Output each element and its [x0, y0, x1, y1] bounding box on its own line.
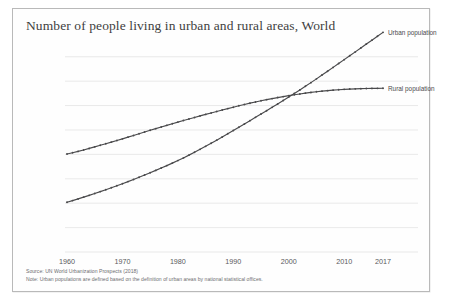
x-tick-label: 1990 — [225, 257, 241, 266]
footer-source: Source: UN World Urbanization Prospects … — [26, 267, 421, 275]
x-tick-label: 2017 — [375, 257, 391, 266]
footer-note: Note: Urban populations are defined base… — [26, 275, 421, 283]
x-tick-label: 1960 — [59, 257, 75, 266]
series-label-urban: Urban population — [388, 29, 437, 36]
x-axis-tick-labels: 1960197019801990200020102017 — [13, 9, 431, 293]
series-label-rural: Rural population — [388, 85, 435, 92]
chart-footer: Source: UN World Urbanization Prospects … — [26, 267, 421, 283]
x-tick-label: 1980 — [170, 257, 186, 266]
x-tick-label: 1970 — [114, 257, 130, 266]
x-tick-label: 2010 — [336, 257, 352, 266]
chart-card: Number of people living in urban and rur… — [12, 8, 430, 292]
x-tick-label: 2000 — [281, 257, 297, 266]
